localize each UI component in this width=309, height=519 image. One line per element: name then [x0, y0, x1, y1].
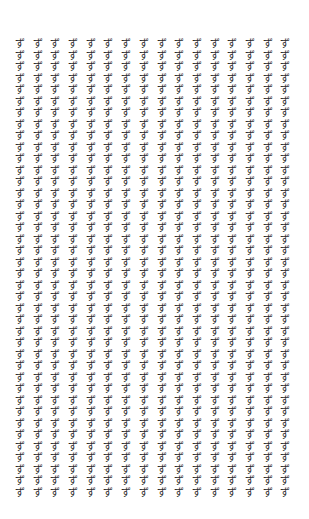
glyph-cell: ず — [210, 429, 228, 441]
glyph-cell: ず — [33, 234, 51, 246]
glyph-cell: ず — [15, 84, 33, 96]
glyph-cell: ず — [227, 165, 245, 177]
glyph-cell: ず — [139, 326, 157, 338]
glyph-cell: ず — [139, 107, 157, 119]
glyph-cell: ず — [50, 360, 68, 372]
glyph-cell: ず — [103, 176, 121, 188]
glyph-cell: ず — [68, 73, 86, 85]
glyph-cell: ず — [15, 188, 33, 200]
glyph-cell: ず — [174, 303, 192, 315]
glyph-cell: ず — [33, 84, 51, 96]
glyph-cell: ず — [139, 395, 157, 407]
glyph-cell: ず — [280, 314, 298, 326]
glyph-cell: ず — [139, 314, 157, 326]
glyph-cell: ず — [139, 349, 157, 361]
glyph-cell: ず — [192, 303, 210, 315]
glyph-cell: ず — [157, 211, 175, 223]
glyph-cell: ず — [280, 165, 298, 177]
glyph-cell: ず — [103, 360, 121, 372]
glyph-cell: ず — [227, 107, 245, 119]
glyph-cell: ず — [68, 130, 86, 142]
glyph-cell: ず — [210, 360, 228, 372]
glyph-cell: ず — [139, 291, 157, 303]
glyph-cell: ず — [227, 418, 245, 430]
glyph-cell: ず — [139, 61, 157, 73]
glyph-cell: ず — [103, 383, 121, 395]
glyph-cell: ず — [245, 464, 263, 476]
glyph-cell: ず — [245, 487, 263, 499]
glyph-cell: ず — [280, 280, 298, 292]
glyph-cell: ず — [86, 280, 104, 292]
glyph-cell: ず — [86, 395, 104, 407]
glyph-cell: ず — [245, 257, 263, 269]
glyph-cell: ず — [245, 303, 263, 315]
glyph-cell: ず — [50, 395, 68, 407]
glyph-cell: ず — [33, 257, 51, 269]
glyph-cell: ず — [33, 142, 51, 154]
glyph-cell: ず — [103, 395, 121, 407]
glyph-cell: ず — [86, 418, 104, 430]
glyph-cell: ず — [174, 222, 192, 234]
glyph-cell: ず — [139, 222, 157, 234]
glyph-cell: ず — [192, 280, 210, 292]
glyph-cell: ず — [263, 429, 281, 441]
glyph-cell: ず — [174, 73, 192, 85]
glyph-cell: ず — [103, 153, 121, 165]
glyph-cell: ず — [192, 418, 210, 430]
glyph-cell: ず — [174, 130, 192, 142]
glyph-cell: ず — [33, 395, 51, 407]
glyph-cell: ず — [86, 50, 104, 62]
glyph-cell: ず — [139, 257, 157, 269]
glyph-cell: ず — [174, 119, 192, 131]
glyph-cell: ず — [157, 234, 175, 246]
glyph-cell: ず — [210, 349, 228, 361]
glyph-cell: ず — [280, 222, 298, 234]
glyph-cell: ず — [121, 314, 139, 326]
glyph-cell: ず — [139, 199, 157, 211]
glyph-cell: ず — [210, 314, 228, 326]
glyph-cell: ず — [174, 383, 192, 395]
glyph-cell: ず — [68, 383, 86, 395]
glyph-cell: ず — [280, 73, 298, 85]
glyph-cell: ず — [210, 418, 228, 430]
glyph-cell: ず — [68, 452, 86, 464]
glyph-cell: ず — [157, 119, 175, 131]
glyph-cell: ず — [33, 211, 51, 223]
glyph-cell: ず — [50, 61, 68, 73]
glyph-cell: ず — [121, 153, 139, 165]
glyph-cell: ず — [121, 475, 139, 487]
glyph-cell: ず — [50, 84, 68, 96]
glyph-cell: ず — [280, 475, 298, 487]
glyph-cell: ず — [121, 50, 139, 62]
glyph-cell: ず — [139, 383, 157, 395]
glyph-cell: ず — [33, 475, 51, 487]
glyph-cell: ず — [103, 303, 121, 315]
glyph-cell: ず — [103, 199, 121, 211]
glyph-cell: ず — [86, 257, 104, 269]
glyph-cell: ず — [139, 280, 157, 292]
glyph-cell: ず — [245, 153, 263, 165]
glyph-cell: ず — [174, 429, 192, 441]
glyph-cell: ず — [68, 291, 86, 303]
glyph-cell: ず — [86, 314, 104, 326]
glyph-cell: ず — [192, 107, 210, 119]
glyph-cell: ず — [157, 142, 175, 154]
glyph-cell: ず — [68, 326, 86, 338]
glyph-cell: ず — [192, 475, 210, 487]
glyph-cell: ず — [245, 418, 263, 430]
glyph-cell: ず — [121, 245, 139, 257]
glyph-cell: ず — [121, 165, 139, 177]
glyph-cell: ず — [174, 176, 192, 188]
glyph-cell: ず — [15, 107, 33, 119]
glyph-cell: ず — [33, 406, 51, 418]
glyph-cell: ず — [50, 257, 68, 269]
glyph-cell: ず — [280, 383, 298, 395]
glyph-cell: ず — [174, 211, 192, 223]
glyph-cell: ず — [33, 337, 51, 349]
glyph-cell: ず — [33, 418, 51, 430]
glyph-cell: ず — [33, 429, 51, 441]
glyph-cell: ず — [210, 38, 228, 50]
glyph-cell: ず — [245, 199, 263, 211]
glyph-cell: ず — [103, 372, 121, 384]
glyph-cell: ず — [157, 418, 175, 430]
